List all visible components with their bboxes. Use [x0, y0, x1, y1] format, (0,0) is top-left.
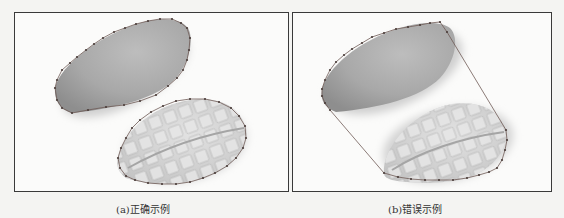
caption-incorrect-example: (b)错误示例 — [388, 201, 442, 216]
mango-skin-shape — [322, 23, 456, 112]
mango-skin-shape — [55, 19, 191, 113]
panel-b-illustration — [315, 12, 520, 194]
panel-a-illustration — [49, 16, 253, 193]
caption-correct-example: (a)正确示例 — [116, 201, 170, 216]
figure-canvas — [0, 0, 564, 218]
